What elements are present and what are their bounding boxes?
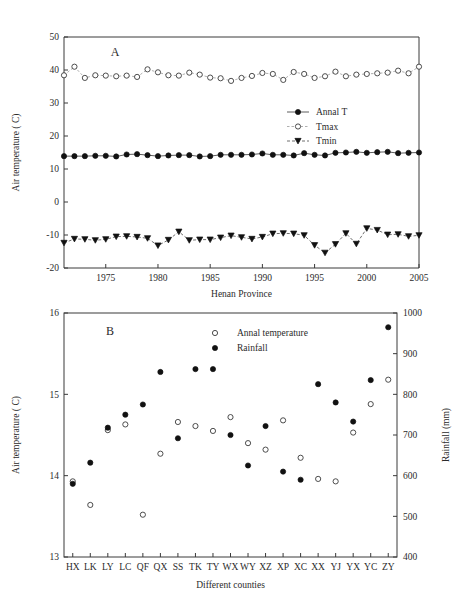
panel-a-data-point [270, 71, 275, 76]
panel-a-legend-label: Annal T [316, 107, 347, 117]
panel-a-xaxis-title: Henan Province [211, 289, 272, 299]
panel-b-data-point [316, 382, 321, 387]
panel-a-data-point [61, 240, 67, 246]
panel-b-series-0 [70, 377, 391, 517]
panel-b-data-point [351, 419, 356, 424]
panel-b-xtick-label: XX [311, 562, 325, 572]
panel-a-data-point [187, 70, 192, 75]
panel-a-data-point [333, 69, 338, 74]
panel-b-xtick-label: LC [119, 562, 131, 572]
panel-b-legend: Annal temperatureRainfall [212, 328, 308, 353]
panel-a-legend-marker [295, 109, 300, 114]
panel-b-data-point [70, 481, 75, 486]
panel-b-xtick-label: XZ [259, 562, 272, 572]
panel-b-data-point [140, 512, 145, 517]
panel-a-data-point [311, 243, 317, 249]
panel-a-data-point [239, 75, 244, 80]
panel-b-data-point [193, 423, 198, 428]
panel-b-data-point [368, 378, 373, 383]
panel-b-xtick-label: SS [173, 562, 184, 572]
panel-b-data-point [386, 377, 391, 382]
panel-b-label: B [106, 324, 114, 338]
panel-b-data-point [316, 476, 321, 481]
panel-a-data-point [396, 68, 401, 73]
panel-b-data-point [298, 477, 303, 482]
panel-a-ytick-label: 30 [50, 98, 60, 108]
panel-a-data-point [197, 237, 203, 243]
panel-a-data-point [155, 154, 160, 159]
panel-a-legend-label: Tmin [316, 136, 337, 146]
panel-a-data-point [176, 153, 181, 158]
panel-b-data-point [333, 479, 338, 484]
panel-a-data-point [176, 73, 181, 78]
panel-b-data-point [333, 400, 338, 405]
panel-a-data-point [302, 71, 307, 76]
panel-a-xtick-label: 1990 [253, 273, 272, 283]
panel-a-data-point [92, 238, 98, 244]
panel-a-data-point [72, 154, 77, 159]
panel-a-data-point [208, 75, 213, 80]
panel-a-data-point [218, 152, 223, 157]
panel-b-y2axis-title: Rainfall (mm) [441, 408, 452, 462]
panel-a-data-point [165, 237, 171, 243]
panel-b-ytick-label: 16 [50, 308, 60, 318]
panel-a-data-point [322, 74, 327, 79]
panel-b: 131415164005006007008009001000HXLKLYLCQF… [11, 308, 452, 590]
panel-b-data-point [140, 402, 145, 407]
panel-a-data-point [364, 150, 369, 155]
panel-a-data-point [270, 152, 275, 157]
panel-a-data-point [103, 73, 108, 78]
panel-b-data-point [245, 441, 250, 446]
panel-b-ytick-label: 13 [50, 552, 60, 562]
panel-a-data-point [72, 64, 77, 69]
panel-b-data-point [88, 460, 93, 465]
panel-a-data-point [218, 76, 223, 81]
panel-b-data-point [351, 430, 356, 435]
figure-svg: -20-100102030405019751980198519901995200… [0, 0, 461, 615]
panel-a-data-point [61, 154, 66, 159]
panel-a-data-point [134, 152, 139, 157]
panel-a-legend-marker [295, 124, 300, 129]
panel-b-legend-label: Annal temperature [237, 328, 308, 338]
panel-a-data-point [71, 236, 77, 242]
panel-b-data-point [280, 469, 285, 474]
panel-b-data-point [210, 367, 215, 372]
panel-a-data-point [322, 153, 327, 158]
panel-a-data-point [249, 152, 254, 157]
panel-b-yaxis-title: Air temperature ( C) [11, 396, 22, 474]
panel-a-data-point [343, 150, 348, 155]
panel-a-data-point [353, 241, 359, 247]
panel-a-data-point [354, 72, 359, 77]
panel-a-data-point [385, 149, 390, 154]
panel-b-xtick-label: YC [364, 562, 377, 572]
panel-b-data-point [158, 451, 163, 456]
panel-a-xtick-label: 1980 [148, 273, 167, 283]
panel-a-data-point [364, 71, 369, 76]
panel-a-ytick-label: 50 [50, 32, 60, 42]
panel-a-data-point [93, 73, 98, 78]
panel-a-data-point [260, 70, 265, 75]
panel-a-data-point [228, 152, 233, 157]
panel-a-ytick-label: -10 [46, 230, 59, 240]
panel-b-data-point [175, 436, 180, 441]
panel-a-data-point [82, 237, 88, 243]
panel-b-data-point [263, 423, 268, 428]
panel-a-data-point [312, 75, 317, 80]
panel-a-xtick-label: 1975 [96, 273, 115, 283]
panel-a-data-point [82, 75, 87, 80]
panel-a-legend-label: Tmax [316, 122, 338, 132]
panel-a-series-1 [61, 64, 421, 83]
panel-a-data-point [260, 151, 265, 156]
panel-b-data-point [123, 412, 128, 417]
panel-a-data-point [302, 151, 307, 156]
panel-a-data-point [114, 74, 119, 79]
panel-a-data-point [61, 73, 66, 78]
panel-a-data-point [343, 74, 348, 79]
panel-b-xtick-label: LK [84, 562, 97, 572]
panel-a-data-point [270, 231, 276, 237]
panel-a-data-point [249, 73, 254, 78]
panel-b-xtick-label: TK [189, 562, 202, 572]
panel-a-data-point [416, 64, 421, 69]
panel-a-data-point [166, 153, 171, 158]
figure-container: -20-100102030405019751980198519901995200… [0, 0, 461, 615]
